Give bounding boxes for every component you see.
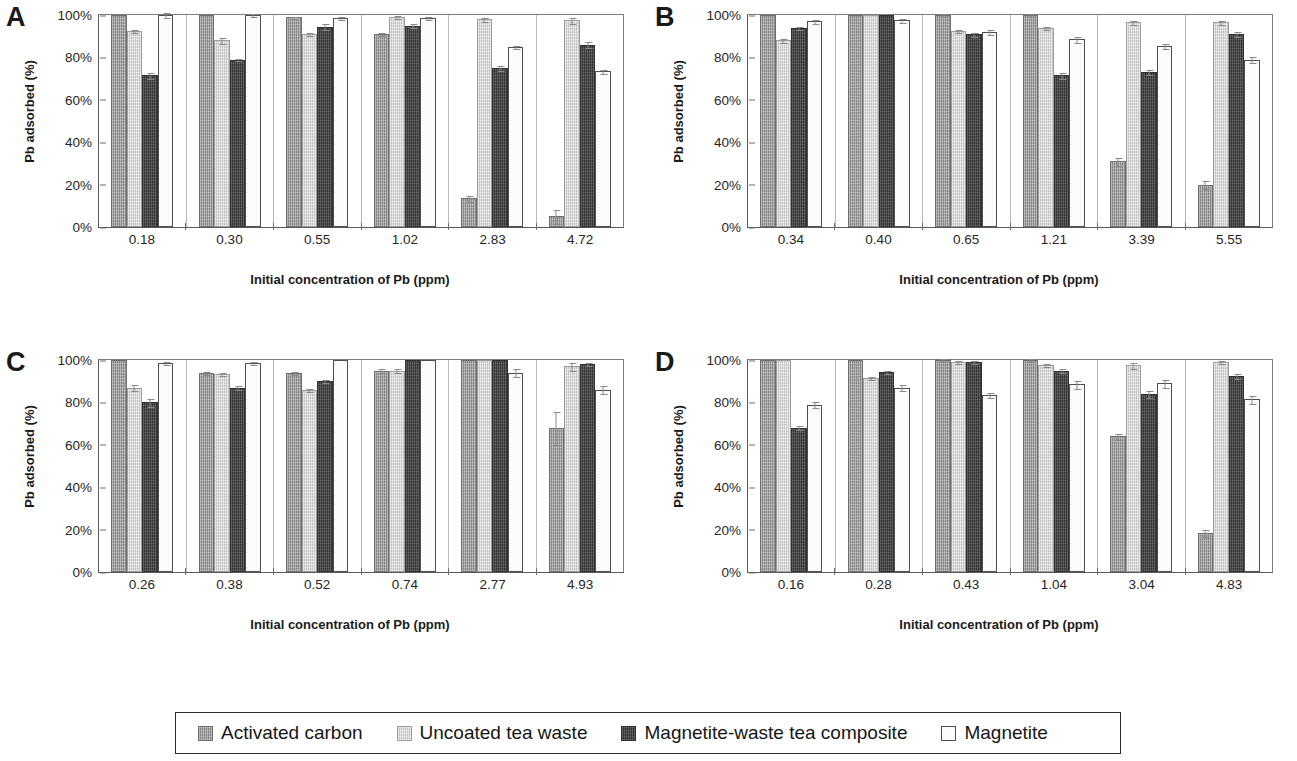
x-axis-tick-label: 4.72: [536, 232, 624, 247]
bar: [1244, 60, 1260, 227]
bar: [1229, 376, 1245, 572]
y-axis-tick: 100%: [57, 353, 99, 368]
error-bar: [556, 210, 557, 225]
panel-c: C Pb adsorbed (%) 100%80%60%40%20%0% 0.2…: [0, 345, 648, 675]
y-axis-tick: 100%: [57, 8, 99, 23]
bar-cluster: [461, 360, 523, 572]
plot-area-c: 100%80%60%40%20%0%: [98, 359, 624, 573]
x-axis-tick-label: 5.55: [1185, 232, 1273, 247]
x-axis-tick-label: 0.26: [98, 577, 186, 592]
bar: [935, 15, 951, 227]
y-axis-tick: 100%: [706, 353, 748, 368]
legend-swatch-icon: [397, 726, 412, 741]
bar: [230, 388, 246, 572]
error-bar: [309, 33, 310, 37]
error-bar: [902, 19, 903, 24]
bar: [405, 26, 421, 227]
error-bar: [556, 412, 557, 446]
y-axis-tick: 0%: [72, 220, 99, 235]
bar: [951, 31, 967, 227]
legend-label: Uncoated tea waste: [420, 722, 588, 744]
bar: [477, 360, 493, 572]
x-axis-tick-mark: [1185, 223, 1186, 230]
bar: [374, 371, 390, 572]
error-bar: [942, 359, 943, 362]
bar: [848, 360, 864, 572]
error-bar: [1133, 363, 1134, 369]
x-axis-tick-mark: [1185, 568, 1186, 575]
bar-cluster: [760, 360, 822, 572]
x-axis-ticks-a: 0.180.300.551.022.834.72: [98, 232, 624, 247]
bar: [374, 34, 390, 227]
legend-item: Uncoated tea waste: [397, 722, 588, 744]
error-bar: [396, 369, 397, 373]
bar: [142, 402, 158, 572]
y-axis-tick: 60%: [65, 437, 99, 452]
bar: [564, 20, 580, 227]
error-bar: [814, 20, 815, 25]
x-axis-tick-mark: [448, 568, 449, 575]
bar-group: [1010, 15, 1098, 227]
bar-group: [361, 360, 449, 572]
bar: [791, 428, 807, 572]
x-axis-tick-mark: [273, 223, 274, 230]
error-bar: [293, 17, 294, 20]
y-axis-tick-mark: [100, 227, 106, 228]
error-bar: [974, 361, 975, 364]
bar: [549, 216, 565, 227]
bar: [776, 360, 792, 572]
error-bar: [799, 27, 800, 31]
error-bar: [381, 33, 382, 37]
error-bar: [1236, 374, 1237, 380]
error-bar: [958, 30, 959, 34]
legend-item: Activated carbon: [198, 722, 363, 744]
legend: Activated carbonUncoated tea wasteMagnet…: [175, 712, 1121, 754]
x-axis-tick-mark: [922, 223, 923, 230]
error-bar: [515, 369, 516, 378]
bar: [807, 405, 823, 572]
bar-group: [1185, 360, 1273, 572]
bar: [1213, 22, 1229, 227]
error-bar: [1164, 44, 1165, 50]
bar: [894, 20, 910, 227]
bar-group: [273, 15, 361, 227]
x-axis-tick-label: 0.65: [922, 232, 1010, 247]
bar: [807, 21, 823, 227]
bar: [894, 388, 910, 572]
x-axis-tick-mark: [834, 223, 835, 230]
bar: [302, 34, 318, 227]
y-axis-tick: 80%: [714, 50, 748, 65]
bar-group: [922, 15, 1010, 227]
bar: [111, 360, 127, 572]
bar: [142, 75, 158, 227]
error-bar: [412, 24, 413, 28]
error-bar: [989, 393, 990, 399]
y-axis-label-c: Pb adsorbed (%): [22, 362, 37, 552]
x-axis-tick-label: 0.74: [361, 577, 449, 592]
x-axis-tick-label: 0.18: [98, 232, 186, 247]
bar-group: [748, 360, 835, 572]
bar-group: [1185, 15, 1273, 227]
error-bar: [1117, 158, 1118, 167]
bar: [286, 373, 302, 572]
error-bar: [603, 386, 604, 395]
error-bar: [221, 38, 222, 44]
x-axis-ticks-c: 0.260.380.520.742.774.93: [98, 577, 624, 592]
bar-cluster: [848, 15, 910, 227]
bar: [389, 17, 405, 227]
y-axis-tick: 60%: [65, 92, 99, 107]
x-axis-tick-label: 3.04: [1098, 577, 1186, 592]
y-axis-tick: 80%: [65, 50, 99, 65]
legend-item: Magnetite-waste tea composite: [621, 722, 907, 744]
error-bar: [468, 196, 469, 202]
bar: [214, 40, 230, 227]
bar: [230, 60, 246, 227]
error-bar: [484, 18, 485, 23]
y-axis-tick: 80%: [65, 395, 99, 410]
bar-cluster: [374, 15, 436, 227]
y-axis-tick: 20%: [714, 522, 748, 537]
bar-group: [1010, 360, 1098, 572]
bar-cluster: [1023, 360, 1085, 572]
bar: [1069, 39, 1085, 227]
bar-cluster: [374, 360, 436, 572]
